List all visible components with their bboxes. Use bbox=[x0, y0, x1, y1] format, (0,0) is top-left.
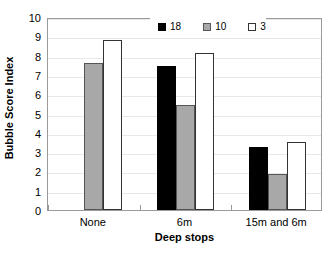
y-axis-tick-label: 10 bbox=[29, 13, 41, 24]
bar bbox=[157, 66, 176, 210]
x-axis-tick-labels: None6m15m and 6m bbox=[47, 216, 322, 232]
legend-item: 10 bbox=[203, 22, 226, 32]
y-axis-tick-label: 8 bbox=[35, 51, 41, 62]
bars-layer bbox=[48, 19, 321, 210]
y-axis-tick-label: 6 bbox=[35, 90, 41, 101]
y-axis-tick-label: 7 bbox=[35, 70, 41, 81]
bar bbox=[84, 63, 103, 210]
y-axis-tick-labels: 012345678910 bbox=[18, 18, 45, 211]
legend-swatch-icon bbox=[203, 23, 211, 31]
legend-label: 10 bbox=[215, 22, 226, 32]
bar bbox=[103, 40, 122, 210]
y-axis-tick-label: 5 bbox=[35, 109, 41, 120]
legend-item: 18 bbox=[158, 22, 181, 32]
bar bbox=[249, 147, 268, 210]
y-axis-title-label: Bubble Score Index bbox=[3, 56, 15, 159]
y-axis-title: Bubble Score Index bbox=[0, 0, 18, 215]
bar bbox=[195, 53, 214, 210]
x-axis-tick-label: 6m bbox=[177, 216, 192, 229]
x-axis-title: Deep stops bbox=[47, 231, 322, 244]
legend-swatch-icon bbox=[248, 23, 256, 31]
legend-swatch-icon bbox=[158, 23, 166, 31]
y-axis-tick-label: 2 bbox=[35, 167, 41, 178]
legend: 18103 bbox=[150, 18, 266, 35]
y-axis-tick-label: 1 bbox=[35, 186, 41, 197]
y-axis-tick-label: 9 bbox=[35, 32, 41, 43]
bar bbox=[176, 105, 195, 210]
bar bbox=[268, 174, 287, 210]
legend-item: 3 bbox=[248, 22, 266, 32]
x-axis-tick-label: 15m and 6m bbox=[246, 216, 307, 229]
y-axis-tick-label: 3 bbox=[35, 148, 41, 159]
bubble-score-bar-chart: Bubble Score Index 012345678910 18103 No… bbox=[0, 0, 334, 265]
legend-label: 18 bbox=[170, 22, 181, 32]
legend-label: 3 bbox=[260, 22, 266, 32]
y-axis-tick-label: 0 bbox=[35, 206, 41, 217]
bar bbox=[287, 142, 306, 211]
y-axis-tick-label: 4 bbox=[35, 128, 41, 139]
x-axis-tick-label: None bbox=[80, 216, 106, 229]
plot-area bbox=[47, 18, 322, 211]
